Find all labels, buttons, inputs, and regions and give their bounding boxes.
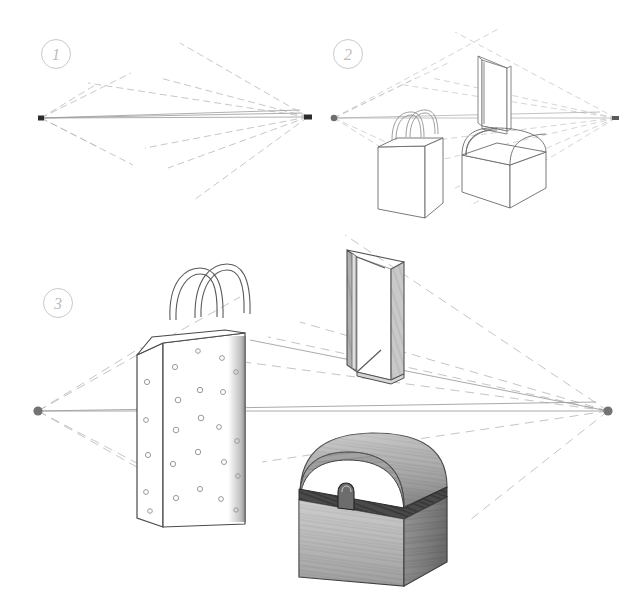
perspective-tutorial-sheet: Two-Point Perspective Drawing Tutorial [0,0,642,610]
step-3-shopping-bag [137,264,250,527]
step-2-solid-rays [334,112,616,118]
bag-left-face [137,343,163,527]
chest-latch-icon [338,483,354,510]
step-3-construction-rays [38,235,608,520]
step-badge-3: 3 [43,288,73,318]
step-2-left-vanishing-point [331,115,338,122]
drawing-canvas [0,0,642,610]
step-2-shopping-bag [378,110,443,218]
step-3-left-vanishing-point [33,406,42,415]
bag-handles [170,264,250,320]
step-2-bag-handles [392,110,438,140]
book-left-pages [352,253,356,370]
step-1-panel [38,43,312,200]
step-3-solid-rays [38,340,608,411]
step-2-right-vanishing-point [612,116,619,120]
step-1-right-vanishing-point [304,115,312,120]
step-badge-2: 2 [333,39,363,69]
step-3-open-book [347,250,404,384]
book-right-cover [391,262,404,380]
step-2-open-book [478,56,511,134]
step-1-construction-rays [41,43,308,200]
step-1-solid-rays [41,110,308,118]
step-2-treasure-chest [462,128,546,208]
step-3-treasure-chest [299,433,447,586]
step-3-right-vanishing-point [603,406,612,415]
step-2-panel [331,28,619,218]
bag-right-edge-shading [228,336,246,522]
step-3-panel [33,235,612,586]
step-badge-1: 1 [41,39,71,69]
step-1-left-vanishing-point [38,116,44,121]
book-inner-gap [357,257,391,380]
